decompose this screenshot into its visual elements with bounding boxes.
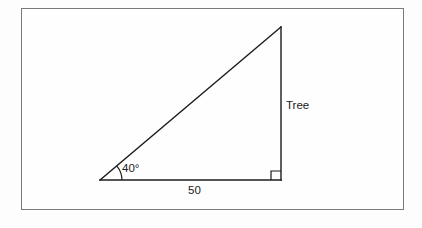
tree-height-label: Tree bbox=[286, 100, 309, 112]
angle-label: 40° bbox=[122, 163, 139, 175]
right-angle-marker-icon bbox=[271, 171, 281, 180]
triangle-hypotenuse-line bbox=[100, 27, 281, 180]
base-length-label: 50 bbox=[188, 185, 201, 197]
figure-root: 40° 50 Tree bbox=[0, 0, 422, 228]
triangle-diagram bbox=[0, 0, 422, 228]
